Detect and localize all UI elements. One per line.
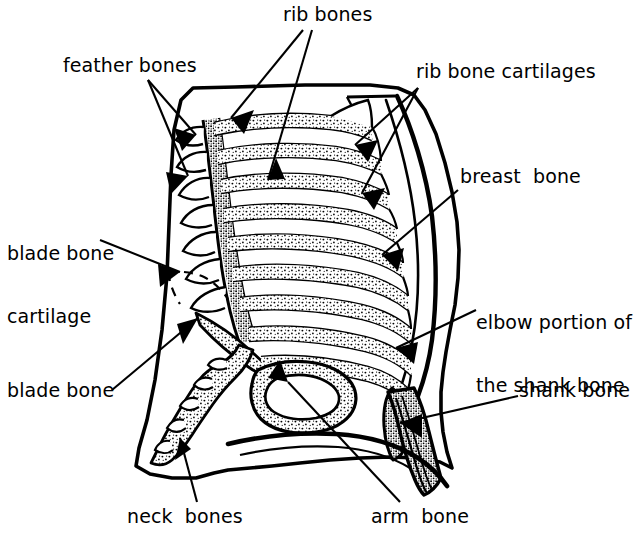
label-arm-bone: arm bone bbox=[371, 506, 469, 527]
label-elbow-portion-line1: elbow portion of bbox=[476, 312, 632, 333]
label-rib-bones: rib bones bbox=[283, 4, 372, 25]
label-neck-bones: neck bones bbox=[127, 506, 243, 527]
label-feather-bones: feather bones bbox=[63, 55, 197, 76]
label-blade-bone: blade bone bbox=[7, 380, 114, 401]
label-blade-bone-cartilage-line2: cartilage bbox=[7, 306, 114, 327]
label-rib-bone-cartilages: rib bone cartilages bbox=[416, 61, 596, 82]
label-blade-bone-cartilage-line1: blade bone bbox=[7, 243, 114, 264]
label-blade-bone-cartilage: blade bone cartilage bbox=[7, 201, 114, 369]
label-shank-bone: shank bone bbox=[519, 380, 630, 401]
diagram-canvas: rib bones feather bones rib bone cartila… bbox=[0, 0, 637, 535]
label-breast-bone: breast bone bbox=[460, 166, 581, 187]
label-elbow-portion-of-shank-bone: elbow portion of the shank bone bbox=[476, 270, 632, 438]
